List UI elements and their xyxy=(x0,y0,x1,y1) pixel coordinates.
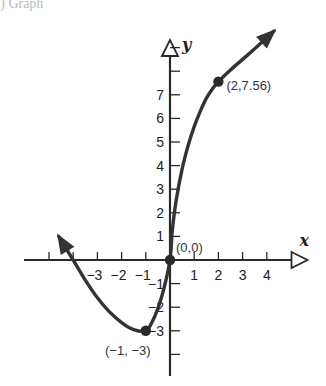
x-tick-label: 2 xyxy=(215,267,223,283)
point-label: (2,7.56) xyxy=(226,78,271,93)
x-tick-label: 4 xyxy=(263,267,271,283)
y-tick-label: 4 xyxy=(156,158,164,174)
y-tick-label: 6 xyxy=(156,110,164,126)
data-point xyxy=(213,76,223,86)
y-axis-label: y xyxy=(181,35,193,54)
x-axis-arrow-icon xyxy=(292,252,308,268)
x-tick-label: 3 xyxy=(239,267,247,283)
x-tick-label: −2 xyxy=(111,267,127,283)
curve-arrow-left-icon xyxy=(57,234,74,255)
y-tick-label: 2 xyxy=(156,205,164,221)
point-label: (−1, −3) xyxy=(105,343,151,358)
y-tick-label: 3 xyxy=(156,181,164,197)
x-tick-label: 1 xyxy=(190,267,198,283)
curve-line xyxy=(59,31,274,331)
curve-group xyxy=(57,29,276,331)
y-tick-label: −1 xyxy=(148,276,164,292)
data-point xyxy=(165,255,175,265)
y-tick-label: 1 xyxy=(156,228,164,244)
y-tick-label: 7 xyxy=(156,87,164,103)
data-point xyxy=(141,326,151,336)
header-fragment: a) Graph xyxy=(0,0,43,12)
graph: a) Graph −3−2−112341234567−1−2−3 (0,0)(2… xyxy=(0,0,326,386)
points: (0,0)(2,7.56)(−1, −3) xyxy=(105,76,271,357)
point-label: (0,0) xyxy=(176,240,203,255)
x-tick-label: −3 xyxy=(86,267,102,283)
y-tick-label: 5 xyxy=(156,134,164,150)
x-axis-label: x xyxy=(299,231,310,250)
